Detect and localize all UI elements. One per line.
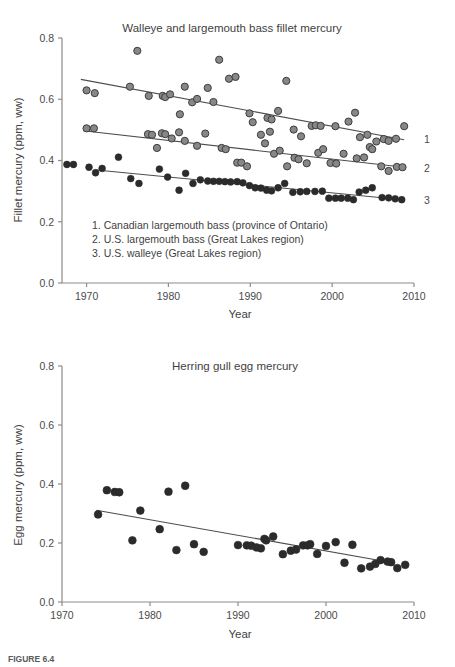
data-point (325, 195, 332, 202)
data-point (115, 154, 122, 161)
data-point (136, 180, 143, 187)
egg-mercury-svg: Herring gull egg mercury Year Egg mercur… (0, 340, 455, 650)
y-axis-label-egg: Egg mercury (ppm, ww) (12, 424, 24, 546)
data-point (115, 488, 123, 496)
data-points-fillet (64, 47, 408, 203)
x-axis-label-egg: Year (228, 628, 251, 640)
data-point (268, 187, 275, 194)
data-point (297, 188, 304, 195)
data-point (306, 540, 314, 548)
x-tick-label: 1980 (157, 290, 181, 302)
data-point (200, 548, 208, 556)
data-points-egg (94, 482, 409, 572)
data-point (103, 486, 111, 494)
data-point (204, 84, 211, 91)
data-point (303, 188, 310, 195)
data-point (292, 546, 300, 554)
data-point (269, 533, 277, 541)
data-point (276, 147, 283, 154)
data-point (173, 546, 181, 554)
data-point (350, 196, 357, 203)
data-point (290, 126, 297, 133)
x-tick-label: 1980 (138, 609, 162, 621)
data-point (257, 131, 264, 138)
data-point (127, 175, 134, 182)
data-point (393, 564, 401, 572)
y-tick-label: 0.2 (39, 537, 54, 549)
data-point (275, 107, 282, 114)
data-point (156, 525, 164, 533)
data-point (369, 146, 376, 153)
data-point (345, 118, 352, 125)
x-tick-label: 2000 (320, 290, 344, 302)
data-point (94, 510, 102, 518)
data-point (216, 56, 223, 63)
data-point (190, 180, 197, 187)
y-tick-label: 0.0 (39, 596, 54, 608)
data-point (297, 133, 304, 140)
data-point (90, 125, 97, 132)
x-axis-label-fillet: Year (228, 308, 251, 320)
series-number-label: 3 (424, 194, 430, 206)
y-tick-label: 0.0 (39, 277, 54, 289)
data-point (193, 95, 200, 102)
data-point (322, 542, 330, 550)
legend-entry: 3. U.S. walleye (Great Lakes region) (92, 247, 261, 259)
data-point (284, 163, 291, 170)
y-tick-label: 0.6 (39, 93, 54, 105)
data-point (377, 556, 385, 564)
fillet-mercury-svg: Walleye and largemouth bass fillet mercu… (0, 0, 455, 340)
x-tick-label: 1990 (239, 290, 263, 302)
data-point (83, 125, 90, 132)
figure-caption-number: FIGURE 6.4 (8, 654, 54, 664)
data-point (126, 83, 133, 90)
data-point (279, 550, 287, 558)
data-point (357, 564, 365, 572)
data-point (197, 176, 204, 183)
data-point (145, 92, 152, 99)
y-tick-labels-fillet: 0.00.20.40.60.8 (39, 32, 54, 289)
y-tick-labels-egg: 0.00.20.40.60.8 (39, 360, 54, 608)
data-point (243, 163, 250, 170)
x-tick-label: 2010 (402, 609, 426, 621)
figure-caption: FIGURE 6.4 (8, 654, 448, 664)
data-point (341, 559, 349, 567)
legend-entry: 1. Canadian largemouth bass (province of… (92, 219, 328, 231)
data-point (362, 187, 369, 194)
x-tick-labels-fillet: 19701980199020002010 (75, 290, 426, 302)
data-point (387, 558, 395, 566)
series-number-label: 1 (424, 133, 430, 145)
data-point (148, 131, 155, 138)
data-point (64, 161, 71, 168)
data-point (378, 163, 385, 170)
data-point (319, 188, 326, 195)
data-point (333, 160, 340, 167)
y-tick-label: 0.8 (39, 32, 54, 44)
data-point (317, 122, 324, 129)
data-point (275, 184, 282, 191)
data-point (181, 137, 188, 144)
chart-title-fillet: Walleye and largemouth bass fillet mercu… (122, 22, 342, 34)
data-point (320, 146, 327, 153)
data-point (281, 180, 288, 187)
data-point (83, 87, 90, 94)
data-point (91, 90, 98, 97)
data-point (356, 134, 363, 141)
data-point (234, 541, 242, 549)
data-point (266, 128, 273, 135)
data-point (168, 135, 175, 142)
data-point (340, 150, 347, 157)
data-point (332, 538, 340, 546)
data-point (99, 165, 106, 172)
chart-panel-egg-mercury: Herring gull egg mercury Year Egg mercur… (0, 340, 455, 650)
y-tick-label: 0.8 (39, 360, 54, 372)
data-point (401, 561, 409, 569)
data-point (190, 540, 198, 548)
series-number-label: 2 (424, 162, 430, 174)
data-point (165, 488, 173, 496)
data-point (153, 144, 160, 151)
data-point (401, 123, 408, 130)
data-point (166, 91, 173, 98)
data-point (364, 131, 371, 138)
data-point (240, 179, 247, 186)
